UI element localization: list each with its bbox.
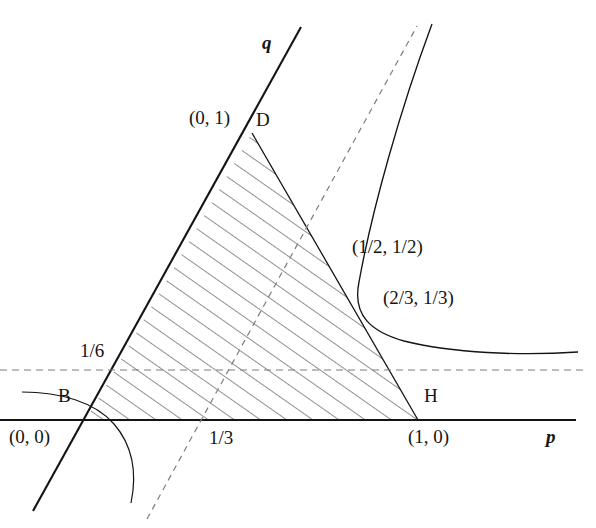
tick-label-one-third: 1/3	[209, 428, 233, 447]
point-label-h: H	[424, 386, 438, 405]
tick-label-one-sixth: 1/6	[80, 341, 104, 360]
point-label-b-coord: (0, 0)	[9, 427, 50, 446]
hatched-region	[86, 133, 418, 420]
point-label-d: D	[256, 110, 270, 129]
diagram-svg	[0, 0, 596, 528]
p-axis-label: p	[546, 427, 556, 446]
point-label-b: B	[58, 386, 71, 405]
point-label-half-half: (1/2, 1/2)	[352, 237, 423, 256]
q-axis-label: q	[262, 33, 272, 52]
figure-canvas: q p (0, 1) D (1/2, 1/2) (2/3, 1/3) 1/6 B…	[0, 0, 596, 528]
point-label-twothirds-onethird: (2/3, 1/3)	[383, 288, 454, 307]
point-label-d-coord: (0, 1)	[189, 108, 230, 127]
point-label-h-coord: (1, 0)	[408, 427, 449, 446]
